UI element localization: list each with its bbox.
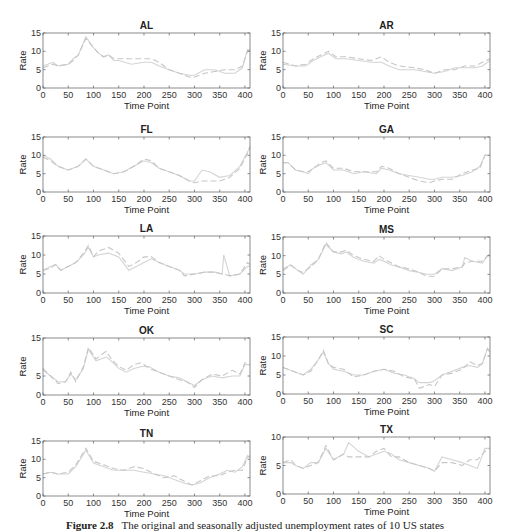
x-tick-label: 250 [162, 498, 177, 508]
y-tick-label: 5 [276, 370, 281, 380]
y-tick-label: 10 [271, 150, 281, 160]
x-tick-label: 150 [351, 396, 366, 406]
y-axis-label: Rate [257, 154, 268, 174]
x-tick-label: 300 [427, 396, 442, 406]
x-tick-label: 50 [303, 90, 313, 100]
panel-ga: GA050100150200250300350400051015Time Poi… [257, 124, 492, 215]
panel-title: OK [139, 325, 155, 336]
x-tick-label: 100 [326, 396, 341, 406]
x-tick-label: 300 [187, 90, 202, 100]
panel-title: AL [140, 20, 153, 31]
plot-box [283, 137, 490, 192]
x-tick-label: 300 [427, 194, 442, 204]
x-tick-label: 400 [237, 295, 252, 305]
panel-fl: FL050100150200250300350400051015Time Poi… [17, 124, 252, 215]
panel-la: LA050100150200250300350400051015Time Poi… [17, 223, 252, 316]
y-tick-label: 10 [31, 46, 41, 56]
x-tick-label: 200 [136, 498, 151, 508]
x-axis-label: Time Point [364, 204, 409, 215]
y-tick-label: 10 [271, 251, 281, 261]
panel-title: FL [140, 124, 152, 135]
panel-title: TX [380, 424, 393, 435]
x-tick-label: 400 [477, 295, 492, 305]
x-axis-label: Time Point [124, 407, 169, 418]
y-tick-label: 10 [31, 454, 41, 464]
y-tick-label: 5 [36, 473, 41, 483]
figure-canvas: AL050100150200250300350400051015Time Poi… [0, 0, 510, 532]
panel-tx: TX0501001502002503003504000510Time Point… [257, 424, 492, 517]
panel-title: TN [140, 428, 153, 439]
x-tick-label: 400 [477, 496, 492, 506]
x-tick-label: 200 [376, 496, 391, 506]
x-tick-label: 50 [63, 397, 73, 407]
y-tick-label: 5 [36, 269, 41, 279]
x-tick-label: 350 [452, 396, 467, 406]
x-tick-label: 100 [86, 194, 101, 204]
x-axis-label: Time Point [364, 100, 409, 111]
figure-caption: Figure 2.8 The original and seasonally a… [0, 519, 510, 531]
panel-ms: MS050100150200250300350400051015Time Poi… [257, 224, 492, 316]
x-tick-label: 50 [63, 194, 73, 204]
original-series-line [43, 247, 250, 276]
y-axis-label: Rate [257, 355, 268, 375]
y-axis-label: Rate [257, 255, 268, 275]
x-tick-label: 250 [162, 194, 177, 204]
x-tick-label: 200 [376, 295, 391, 305]
x-tick-label: 400 [237, 194, 252, 204]
x-tick-label: 400 [237, 397, 252, 407]
x-tick-label: 0 [40, 498, 45, 508]
y-tick-label: 15 [31, 231, 41, 241]
x-tick-label: 0 [40, 397, 45, 407]
y-tick-label: 5 [276, 461, 281, 471]
x-tick-label: 50 [303, 396, 313, 406]
original-series-line [283, 443, 490, 472]
x-tick-label: 200 [376, 90, 391, 100]
x-axis-label: Time Point [124, 508, 169, 519]
x-tick-label: 300 [187, 397, 202, 407]
x-tick-label: 150 [111, 295, 126, 305]
x-tick-label: 0 [40, 90, 45, 100]
x-tick-label: 250 [402, 396, 417, 406]
x-axis-label: Time Point [124, 100, 169, 111]
y-tick-label: 0 [276, 288, 281, 298]
x-axis-label: Time Point [364, 305, 409, 316]
panel-title: GA [379, 124, 394, 135]
y-tick-label: 10 [31, 150, 41, 160]
plot-box [283, 237, 490, 293]
x-tick-label: 150 [111, 397, 126, 407]
panel-tn: TN050100150200250300350400051015Time Poi… [17, 428, 252, 519]
x-tick-label: 350 [212, 295, 227, 305]
x-tick-label: 350 [452, 90, 467, 100]
x-tick-label: 150 [111, 90, 126, 100]
x-tick-label: 350 [452, 194, 467, 204]
plot-box [43, 33, 250, 88]
y-tick-label: 0 [36, 491, 41, 501]
x-tick-label: 0 [40, 194, 45, 204]
y-tick-label: 5 [36, 371, 41, 381]
x-tick-label: 250 [162, 90, 177, 100]
x-tick-label: 300 [187, 194, 202, 204]
y-tick-label: 15 [31, 28, 41, 38]
y-axis-label: Rate [257, 455, 268, 475]
x-tick-label: 0 [40, 295, 45, 305]
x-tick-label: 250 [402, 90, 417, 100]
x-tick-label: 50 [303, 194, 313, 204]
y-tick-label: 15 [31, 132, 41, 142]
x-tick-label: 300 [427, 90, 442, 100]
x-tick-label: 250 [402, 194, 417, 204]
y-axis-label: Rate [17, 356, 28, 376]
x-tick-label: 50 [63, 295, 73, 305]
y-axis-label: Rate [17, 50, 28, 70]
x-tick-label: 100 [86, 498, 101, 508]
y-tick-label: 0 [276, 389, 281, 399]
x-tick-label: 100 [326, 194, 341, 204]
adjusted-series-line [43, 448, 250, 485]
x-tick-label: 50 [63, 498, 73, 508]
x-tick-label: 200 [136, 295, 151, 305]
adjusted-series-line [283, 51, 490, 73]
x-tick-label: 200 [376, 194, 391, 204]
x-tick-label: 350 [212, 90, 227, 100]
x-tick-label: 150 [111, 194, 126, 204]
x-tick-label: 350 [452, 496, 467, 506]
y-tick-label: 0 [36, 390, 41, 400]
